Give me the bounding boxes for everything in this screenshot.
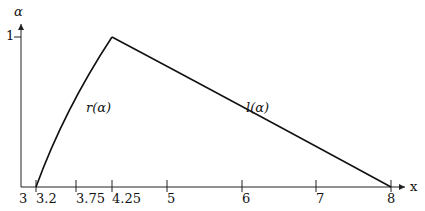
x-tick-label: 3 [19, 191, 27, 206]
membership-diagram: α 1 x 3 3.2 3.75 4.25 5 6 7 8 r(α) l(α) [0, 0, 425, 211]
x-tick-label: 8 [387, 191, 395, 206]
x-tick-label: 3.75 [76, 191, 105, 206]
right-curve-label: l(α) [246, 100, 269, 115]
x-tick-label: 7 [316, 191, 324, 206]
x-tick-label: 5 [167, 191, 175, 206]
x-axis-label: x [410, 179, 418, 194]
x-tick-label: 3.2 [36, 191, 57, 206]
x-tick-label: 6 [242, 191, 250, 206]
x-tick-labels: 3 3.2 3.75 4.25 5 6 7 8 [19, 191, 395, 206]
left-curve-label: r(α) [86, 100, 111, 115]
y-tick-label-1: 1 [6, 28, 14, 43]
y-axis-label: α [14, 4, 23, 19]
x-tick-label: 4.25 [112, 191, 141, 206]
